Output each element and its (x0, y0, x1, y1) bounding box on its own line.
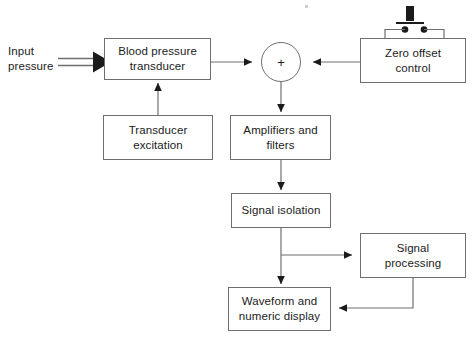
block-signal-isolation[interactable]: Signal isolation (231, 193, 331, 228)
block-signal-processing[interactable]: Signal processing (360, 233, 466, 278)
push-button-switch-icon (385, 6, 444, 38)
block-zero-offset-control[interactable]: Zero offset control (360, 38, 466, 83)
summing-junction[interactable]: + (261, 42, 301, 82)
connector-processing-to-display (339, 278, 413, 308)
block-waveform-and-numeric-display[interactable]: Waveform and numeric display (228, 287, 331, 331)
block-blood-pressure-transducer[interactable]: Blood pressure transducer (104, 38, 211, 80)
block-amplifiers-and-filters[interactable]: Amplifiers and filters (230, 115, 331, 160)
input-pressure-label: Input pressure (8, 44, 54, 74)
scan-artifact-speck (305, 5, 308, 8)
block-diagram-canvas: Input pressure Blood pressure transducer… (0, 0, 473, 340)
block-transducer-excitation[interactable]: Transducer excitation (103, 115, 213, 160)
